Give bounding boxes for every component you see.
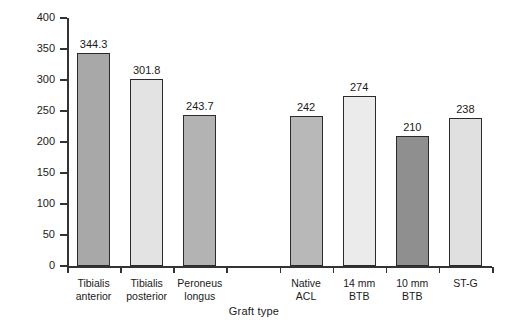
x-axis-title: Graft type [0, 305, 508, 317]
y-axis-tick-mark [60, 265, 67, 267]
y-axis-tick-label: 350 [3, 43, 55, 54]
y-axis-tick-label: 300 [3, 74, 55, 85]
y-axis-tick-mark [60, 17, 67, 19]
y-axis-tick-label: 150 [3, 167, 55, 178]
x-axis-tick-mark [280, 267, 282, 273]
x-axis-category-label-line: ST-G [425, 277, 505, 290]
y-axis-tick-label: 400 [3, 12, 55, 23]
bar [290, 116, 323, 266]
y-axis-tick-mark [60, 234, 67, 236]
y-axis-tick-mark [60, 110, 67, 112]
x-axis-tick-mark [492, 267, 494, 273]
bar [183, 115, 216, 266]
y-axis-tick-label: 200 [3, 136, 55, 147]
bar [77, 53, 110, 266]
stiffness-by-graft-type-bar-chart: Stiffness 050100150200250300350400 344.3… [0, 0, 508, 330]
x-axis-tick-mark [333, 267, 335, 273]
y-axis-tick-label: 0 [3, 260, 55, 271]
y-axis-tick-label: 50 [3, 229, 55, 240]
bar [130, 79, 163, 266]
y-axis-tick-mark [60, 79, 67, 81]
plot-area: 344.3301.8243.7242274210238 [67, 18, 492, 266]
x-axis-tick-mark [120, 267, 122, 273]
bar-value-label: 301.8 [117, 64, 177, 76]
x-axis-tick-mark [439, 267, 441, 273]
x-axis-tick-mark [226, 267, 228, 273]
bar [396, 136, 429, 266]
x-axis-category-label: ST-G [425, 277, 505, 290]
x-axis-category-label-line: BTB [372, 290, 452, 303]
y-axis-tick-mark [60, 172, 67, 174]
y-axis-tick-label: 100 [3, 198, 55, 209]
bar-value-label: 344.3 [64, 38, 124, 50]
x-axis-tick-mark [386, 267, 388, 273]
bar [449, 118, 482, 266]
bar-value-label: 210 [382, 121, 442, 133]
bar-value-label: 243.7 [170, 100, 230, 112]
x-axis-tick-mark [173, 267, 175, 273]
y-axis-tick-mark [60, 141, 67, 143]
bar-value-label: 242 [276, 101, 336, 113]
bar-value-label: 274 [329, 81, 389, 93]
bar-value-label: 238 [435, 103, 495, 115]
y-axis-tick-mark [60, 203, 67, 205]
bar [343, 96, 376, 266]
x-axis-category-label: Peroneuslongus [160, 277, 240, 302]
x-axis-category-label-line: longus [160, 290, 240, 303]
y-axis-tick-label: 250 [3, 105, 55, 116]
x-axis-tick-mark [67, 267, 69, 273]
x-axis-category-label-line: Peroneus [160, 277, 240, 290]
